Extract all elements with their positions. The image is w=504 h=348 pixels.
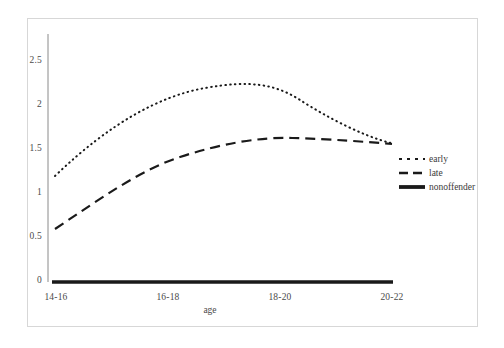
y-tick-label-1: 1 bbox=[8, 187, 42, 197]
chart-legend: early late nonoffender bbox=[398, 152, 484, 194]
x-tick-label-16-18: 16-18 bbox=[138, 292, 198, 302]
x-tick-label-14-16: 14-16 bbox=[26, 292, 86, 302]
legend-swatch-dashed-icon bbox=[398, 168, 426, 178]
x-tick-label-20-22: 20-22 bbox=[362, 292, 422, 302]
legend-swatch-dotted-icon bbox=[398, 154, 426, 164]
y-tick-label-2_5: 2.5 bbox=[8, 55, 42, 65]
x-tick-label-18-20: 18-20 bbox=[250, 292, 310, 302]
legend-item-early: early bbox=[398, 152, 484, 166]
y-tick-label-0: 0 bbox=[8, 275, 42, 285]
legend-label-early: early bbox=[429, 154, 448, 164]
x-axis-title: age bbox=[180, 305, 240, 315]
legend-item-nonoffender: nonoffender bbox=[398, 180, 484, 194]
y-tick-label-0_5: 0.5 bbox=[8, 231, 42, 241]
legend-swatch-solid-icon bbox=[398, 182, 426, 192]
y-tick-label-2: 2 bbox=[8, 99, 42, 109]
legend-label-nonoffender: nonoffender bbox=[429, 182, 475, 192]
chart-figure: 2.5 2 1.5 1 0.5 0 14-16 16-18 18-20 20-2… bbox=[0, 0, 504, 348]
y-tick-label-1_5: 1.5 bbox=[8, 143, 42, 153]
legend-label-late: late bbox=[429, 168, 443, 178]
legend-item-late: late bbox=[398, 166, 484, 180]
series-line-late bbox=[55, 138, 392, 229]
series-line-early bbox=[55, 84, 391, 176]
